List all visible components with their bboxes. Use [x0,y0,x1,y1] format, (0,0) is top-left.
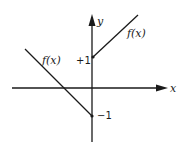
point-plus-one [91,55,94,58]
x-axis-arrow-icon [156,85,168,92]
y-axis-arrow-icon [89,14,96,26]
y-axis-label: y [97,16,103,27]
graph-lines [0,0,184,153]
point-minus-one [90,114,93,117]
tick-minus-one: −1 [97,111,112,121]
right-branch-label: f(x) [127,28,146,39]
function-graph: y x f(x) f(x) +1 −1 [0,0,184,153]
tick-plus-one: +1 [76,56,91,66]
x-axis-label: x [170,83,176,94]
left-branch-label: f(x) [42,55,61,66]
